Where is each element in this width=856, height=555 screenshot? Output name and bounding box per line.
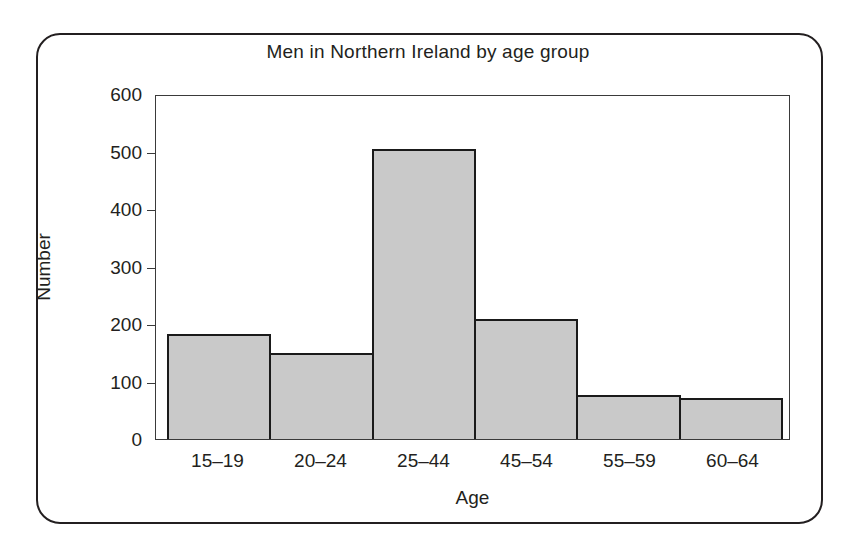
figure: Men in Northern Ireland by age group Num… <box>0 0 856 555</box>
x-tick-label-15-19: 15–19 <box>166 450 269 472</box>
x-tick-label-20-24: 20–24 <box>269 450 372 472</box>
y-tick-label-0: 0 <box>30 429 142 451</box>
y-tick-label-600: 600 <box>30 84 142 106</box>
y-axis-labels: 600 500 400 300 200 100 0 <box>0 0 142 555</box>
bar-20-24 <box>269 353 373 439</box>
x-axis-labels: 15–19 20–24 25–44 45–54 55–59 60–64 <box>166 450 784 472</box>
x-tick-label-25-44: 25–44 <box>372 450 475 472</box>
bar-55-59 <box>576 395 680 439</box>
x-tick-label-60-64: 60–64 <box>681 450 784 472</box>
y-tick-label-300: 300 <box>30 257 142 279</box>
y-tick-label-500: 500 <box>30 142 142 164</box>
bar-25-44 <box>372 149 476 439</box>
plot-area <box>155 95 790 440</box>
x-tick-label-45-54: 45–54 <box>475 450 578 472</box>
bars-layer <box>167 96 783 439</box>
x-axis-title: Age <box>155 487 790 509</box>
x-tick-label-55-59: 55–59 <box>578 450 681 472</box>
bar-15-19 <box>167 334 271 439</box>
bar-45-54 <box>474 319 578 439</box>
bar-60-64 <box>679 398 783 439</box>
y-tick-label-400: 400 <box>30 199 142 221</box>
y-tick-label-200: 200 <box>30 314 142 336</box>
y-tick-label-100: 100 <box>30 372 142 394</box>
